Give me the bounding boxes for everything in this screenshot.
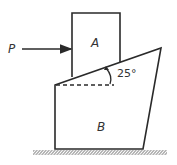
block-a-label: A [90, 36, 99, 50]
block-b [55, 48, 161, 149]
diagram-canvas: P A B 25° [0, 0, 177, 165]
ground-hatching [33, 150, 167, 155]
force-label: P [8, 42, 16, 56]
angle-label: 25° [117, 67, 137, 80]
angle-arc [106, 68, 111, 84]
diagram-svg: P A B 25° [0, 0, 177, 165]
block-b-label: B [97, 120, 105, 134]
